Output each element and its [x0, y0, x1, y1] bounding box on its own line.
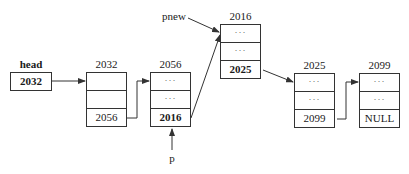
head-pointer-box: 2032	[10, 72, 52, 91]
arrow-2032-to-2056	[127, 81, 149, 118]
node-address: 2032	[86, 58, 127, 70]
list-node-2032: 2056	[86, 72, 127, 127]
arrow-2016-to-2025	[263, 70, 293, 82]
node-data-cell: ···	[151, 91, 190, 109]
node-next-cell: NULL	[360, 110, 399, 128]
node-next-cell: 2016	[151, 109, 190, 127]
node-data-cell: ···	[295, 92, 334, 110]
node-data-cell: ···	[151, 73, 190, 91]
node-next-cell: 2099	[295, 110, 334, 128]
node-address: 2099	[359, 59, 400, 71]
node-data-cell	[87, 91, 126, 109]
node-data-cell: ···	[360, 92, 399, 110]
node-data-cell: ···	[221, 43, 260, 61]
node-data-cell: ···	[221, 25, 260, 43]
node-next-cell: 2025	[221, 61, 260, 79]
arrow-pnew-to-2016	[188, 18, 219, 32]
p-label: p	[166, 152, 178, 164]
arrow-2056-to-2016	[191, 35, 220, 118]
head-label: head	[10, 58, 52, 70]
list-node-2016: ··· ··· 2025	[220, 24, 261, 79]
node-address: 2016	[220, 10, 261, 22]
arrow-2025-to-2099	[337, 82, 358, 119]
node-address: 2056	[150, 58, 191, 70]
list-node-2056: ··· ··· 2016	[150, 72, 191, 127]
connector-lines	[0, 0, 409, 174]
pnew-label: pnew	[160, 10, 188, 22]
node-address: 2025	[294, 59, 335, 71]
node-data-cell: ···	[360, 74, 399, 92]
node-next-cell: 2056	[87, 109, 126, 127]
list-node-2025: ··· ··· 2099	[294, 73, 335, 128]
list-node-2099: ··· ··· NULL	[359, 73, 400, 128]
node-data-cell	[87, 73, 126, 91]
node-data-cell: ···	[295, 74, 334, 92]
